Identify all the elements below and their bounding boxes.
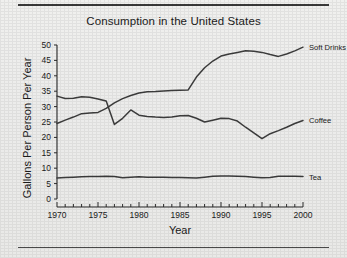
y-tick-label: 0 — [46, 194, 51, 204]
x-tick-label: 1990 — [212, 210, 231, 220]
line-chart-plot: 05101520253035404550 1970197519801985199… — [0, 0, 347, 258]
x-tick-label: 1985 — [171, 210, 190, 220]
y-tick-label: 15 — [42, 148, 52, 158]
series-line-soft-drinks — [57, 47, 303, 123]
data-series-group — [57, 47, 303, 178]
y-tick-label: 10 — [42, 163, 52, 173]
series-line-tea — [57, 176, 303, 178]
y-tick-label: 20 — [42, 132, 52, 142]
y-tick-label: 5 — [46, 179, 51, 189]
figure-canvas: Consumption in the United States Gallons… — [0, 0, 347, 258]
x-tick-label: 1980 — [130, 210, 149, 220]
series-label-coffee: Coffee — [309, 116, 331, 125]
y-tick-label: 45 — [42, 55, 52, 65]
y-axis: 05101520253035404550 — [42, 40, 57, 204]
y-tick-label: 35 — [42, 86, 52, 96]
y-tick-label: 25 — [42, 117, 52, 127]
series-label-group: Soft DrinksCoffeeTea — [309, 43, 346, 181]
x-tick-label: 1970 — [48, 210, 67, 220]
y-tick-label: 30 — [42, 102, 52, 112]
y-tick-label: 50 — [42, 40, 52, 50]
y-tick-label: 40 — [42, 71, 52, 81]
series-label-soft-drinks: Soft Drinks — [309, 43, 346, 52]
x-tick-label: 2000 — [294, 210, 313, 220]
series-line-coffee — [57, 96, 303, 139]
x-tick-label: 1975 — [89, 210, 108, 220]
x-axis: 1970197519801985199019952000 — [48, 202, 313, 220]
series-label-tea: Tea — [309, 173, 322, 182]
x-tick-label: 1995 — [253, 210, 272, 220]
